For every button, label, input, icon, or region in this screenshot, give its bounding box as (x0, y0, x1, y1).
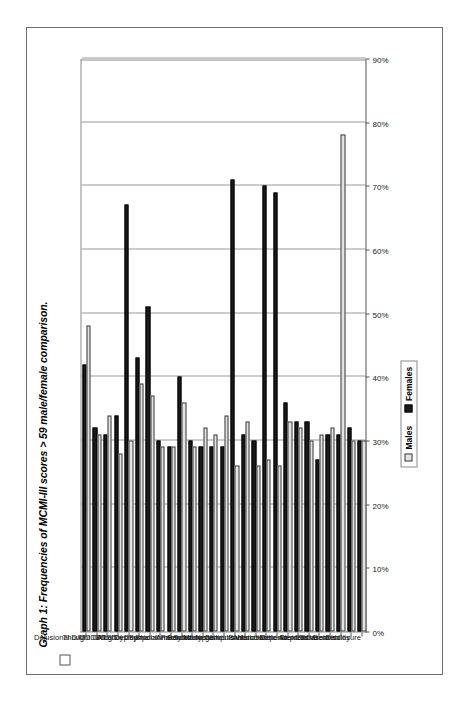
bar-females (273, 192, 277, 631)
bar-females (135, 357, 139, 631)
value-axis-tick-mark (365, 313, 369, 314)
bar-females (357, 440, 361, 631)
bar-females (177, 376, 181, 631)
value-axis-tick-label: 60% (372, 246, 388, 255)
legend-label: Males (403, 425, 413, 449)
category-axis-tick-mark (106, 632, 107, 636)
bar-group (346, 60, 357, 631)
bar-group (229, 60, 240, 631)
value-axis-tick-label: 30% (372, 437, 388, 446)
bar-females (347, 427, 351, 631)
plot-area (80, 59, 366, 632)
bar-group (261, 60, 272, 631)
bar-group (208, 60, 219, 631)
bar-group (92, 60, 103, 631)
bar-females (103, 434, 107, 631)
bar-group (155, 60, 166, 631)
bar-group (123, 60, 134, 631)
category-axis-tick-mark (265, 632, 266, 636)
value-axis-tick-label: 40% (372, 373, 388, 382)
bar-males (351, 440, 355, 631)
bar-group (113, 60, 124, 631)
bar-group (303, 60, 314, 631)
bar-group (293, 60, 304, 631)
bar-group (81, 60, 92, 631)
bar-group (134, 60, 145, 631)
category-axis-tick-mark (276, 632, 277, 636)
value-axis-tick-label: 20% (372, 501, 388, 510)
value-axis-labels: 0%10%20%30%40%50%60%70%80%90% (368, 59, 402, 632)
bar-males (256, 465, 260, 631)
rotated-chart-wrapper: Graph 1: Frequencies of MCMI-III scores … (28, 29, 441, 673)
value-axis-tick-mark (365, 567, 369, 568)
bar-group (166, 60, 177, 631)
value-axis-tick-mark (365, 249, 369, 250)
bar-group (187, 60, 198, 631)
category-axis-tick-mark (212, 632, 213, 636)
bar-males (266, 459, 270, 631)
bar-females (82, 364, 86, 631)
bar-females (336, 434, 340, 631)
category-axis-tick-mark (138, 632, 139, 636)
value-axis-tick-mark (365, 440, 369, 441)
bar-males (309, 440, 313, 631)
value-axis-tick-mark (365, 631, 369, 632)
value-axis-tick-mark (365, 58, 369, 59)
legend-swatch-males-icon (404, 453, 412, 461)
bar-females (283, 402, 287, 631)
bar-males (340, 134, 344, 631)
bar-group (240, 60, 251, 631)
bar-males (213, 434, 217, 631)
bar-group (272, 60, 283, 631)
bar-females (188, 440, 192, 631)
bar-males (203, 427, 207, 631)
category-axis-tick-mark (191, 632, 192, 636)
value-axis-tick-label: 90% (372, 55, 388, 64)
bar-males (277, 465, 281, 631)
category-axis-tick-mark (117, 632, 118, 636)
bar-females (92, 427, 96, 631)
legend-swatch-females-icon (404, 404, 412, 412)
bar-males (150, 395, 154, 631)
bar-females (251, 440, 255, 631)
category-axis-tick-mark (96, 632, 97, 636)
category-axis-tick-mark (318, 632, 319, 636)
bar-group (314, 60, 325, 631)
bar-males (245, 421, 249, 631)
value-axis-tick-mark (365, 122, 369, 123)
value-axis-tick-mark (365, 504, 369, 505)
bar-group (250, 60, 261, 631)
bar-females (304, 421, 308, 631)
bar-females (315, 459, 319, 631)
legend-entry: Males (403, 425, 413, 461)
bar-males (234, 465, 238, 631)
bar-males (361, 440, 365, 631)
bar-males (118, 453, 122, 631)
bar-females (167, 446, 171, 631)
bar-group (176, 60, 187, 631)
bar-females (220, 446, 224, 631)
title-legend-swatch-icon (59, 654, 70, 665)
legend-label: Females (403, 366, 413, 400)
chart-title: Graph 1: Frequencies of MCMI-III scores … (36, 301, 48, 647)
category-axis-tick-mark (159, 632, 160, 636)
bar-males (330, 427, 334, 631)
bar-group (335, 60, 346, 631)
chart-canvas: Graph 1: Frequencies of MCMI-III scores … (28, 29, 441, 673)
bar-females (262, 185, 266, 631)
bar-males (139, 383, 143, 631)
value-axis-tick-label: 0% (372, 628, 384, 637)
category-axis-tick-mark (297, 632, 298, 636)
bar-males (192, 446, 196, 631)
bars-layer (81, 60, 365, 631)
value-axis-tick-label: 70% (372, 182, 388, 191)
bar-females (241, 434, 245, 631)
category-axis-tick-mark (170, 632, 171, 636)
bar-males (160, 446, 164, 631)
bar-males (298, 427, 302, 631)
bar-females (325, 434, 329, 631)
bar-females (145, 306, 149, 631)
bar-females (294, 421, 298, 631)
bar-group (102, 60, 113, 631)
bar-group (325, 60, 336, 631)
